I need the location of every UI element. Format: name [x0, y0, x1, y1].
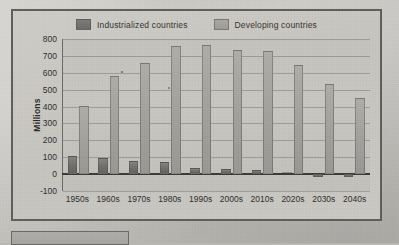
y-axis-tick-label: 500 — [43, 85, 57, 95]
legend-swatch-industrialized-icon — [76, 19, 91, 30]
y-axis-title: Millions — [32, 98, 42, 131]
gridline — [63, 191, 370, 192]
bar-group-1990s — [186, 39, 217, 191]
caption-stub — [11, 231, 129, 245]
y-axis-tick-label: 300 — [43, 118, 57, 128]
y-axis-tick-label: 100 — [43, 152, 57, 162]
bar-industrialized-2010s[interactable] — [252, 170, 262, 174]
bar-developing-2030s[interactable] — [325, 84, 335, 174]
x-axis-tick-label: 2030s — [308, 194, 339, 204]
bar-developing-1980s[interactable] — [171, 46, 181, 174]
y-axis-tick-label: 800 — [43, 34, 57, 44]
bar-industrialized-1950s[interactable] — [68, 156, 78, 175]
legend-label-developing: Developing countries — [235, 20, 317, 30]
scan-speck — [121, 71, 123, 73]
x-axis-tick-label: 2040s — [339, 194, 370, 204]
bar-pair — [217, 39, 248, 191]
bar-group-2010s — [247, 39, 278, 191]
bar-group-2020s — [278, 39, 309, 191]
y-axis-tick-label: 600 — [43, 68, 57, 78]
bar-industrialized-1990s[interactable] — [190, 168, 200, 174]
bar-group-2040s — [339, 39, 370, 191]
bar-series-container — [63, 39, 370, 191]
bar-developing-2010s[interactable] — [263, 51, 273, 174]
bar-industrialized-1980s[interactable] — [160, 162, 170, 174]
chart-figure-frame: Industrialized countries Developing coun… — [11, 9, 382, 221]
bar-industrialized-2040s[interactable] — [344, 174, 354, 177]
bar-developing-2040s[interactable] — [355, 98, 365, 174]
bar-developing-2000s[interactable] — [233, 50, 243, 174]
bar-industrialized-2020s[interactable] — [282, 172, 292, 174]
y-axis-tick-label: 700 — [43, 51, 57, 61]
bar-group-2000s — [217, 39, 248, 191]
bar-developing-1950s[interactable] — [79, 106, 89, 174]
bar-pair — [94, 39, 125, 191]
bar-group-1960s — [94, 39, 125, 191]
x-axis-tick-label: 1980s — [154, 194, 185, 204]
bar-pair — [278, 39, 309, 191]
bar-developing-1990s[interactable] — [202, 45, 212, 174]
bar-pair — [124, 39, 155, 191]
bar-industrialized-1970s[interactable] — [129, 161, 139, 174]
bar-developing-1960s[interactable] — [110, 76, 120, 174]
bar-pair — [339, 39, 370, 191]
bar-industrialized-2030s[interactable] — [313, 174, 323, 177]
x-axis-tick-label: 1960s — [93, 194, 124, 204]
bar-pair — [155, 39, 186, 191]
x-axis-tick-label: 2010s — [247, 194, 278, 204]
x-axis-ticks: 1950s1960s1970s1980s1990s2000s2010s2020s… — [62, 194, 370, 204]
y-axis-tick-label: 200 — [43, 135, 57, 145]
bar-industrialized-1960s[interactable] — [98, 158, 108, 174]
y-axis-tick-label: 400 — [43, 102, 57, 112]
bar-group-2030s — [309, 39, 340, 191]
x-axis-tick-label: 1990s — [185, 194, 216, 204]
y-axis-tick-label: -100 — [40, 186, 57, 196]
bar-pair — [63, 39, 94, 191]
y-axis-tick-label: 0 — [52, 169, 57, 179]
legend-swatch-developing-icon — [214, 19, 229, 30]
bar-developing-2020s[interactable] — [294, 65, 304, 174]
plot-wrapper: Millions 8007006005004003002001000-100 — [62, 39, 370, 191]
legend-item-developing: Developing countries — [214, 19, 317, 30]
bar-group-1970s — [124, 39, 155, 191]
x-axis-tick-label: 2000s — [216, 194, 247, 204]
legend-label-industrialized: Industrialized countries — [97, 20, 188, 30]
bar-industrialized-2000s[interactable] — [221, 169, 231, 174]
bar-group-1980s — [155, 39, 186, 191]
scan-speck — [168, 87, 170, 89]
x-axis-tick-label: 2020s — [278, 194, 309, 204]
bar-pair — [247, 39, 278, 191]
x-axis-tick-label: 1970s — [124, 194, 155, 204]
bar-pair — [309, 39, 340, 191]
bar-group-1950s — [63, 39, 94, 191]
x-axis-tick-label: 1950s — [62, 194, 93, 204]
legend-item-industrialized: Industrialized countries — [76, 19, 188, 30]
bar-pair — [186, 39, 217, 191]
plot-area — [62, 39, 370, 191]
bar-developing-1970s[interactable] — [140, 63, 150, 174]
chart-legend: Industrialized countries Developing coun… — [13, 19, 380, 30]
